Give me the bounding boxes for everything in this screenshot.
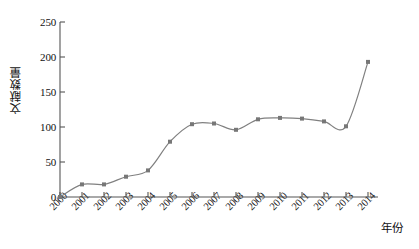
data-point-2007 [212,122,216,126]
plot-area [0,0,419,249]
axis-lines [60,22,378,197]
data-series-line [60,62,368,197]
data-point-2002 [102,182,106,186]
data-point-2003 [124,175,128,179]
data-point-2010 [278,116,282,120]
x-axis-ticks [60,192,368,197]
line-chart-figure: 文献数量 年份 250 200 150 100 50 0 2000 2001 2… [0,0,419,249]
data-point-2011 [300,117,304,121]
data-point-2009 [256,117,260,121]
data-point-2004 [146,168,150,172]
data-point-2001 [80,182,84,186]
data-point-2012 [322,119,326,123]
data-point-2013 [344,124,348,128]
y-axis-ticks [60,22,65,162]
data-point-2006 [190,122,194,126]
data-point-markers [58,60,370,199]
data-point-2000 [58,195,62,199]
data-point-2005 [168,140,172,144]
data-point-2014 [366,60,370,64]
data-point-2008 [234,128,238,132]
